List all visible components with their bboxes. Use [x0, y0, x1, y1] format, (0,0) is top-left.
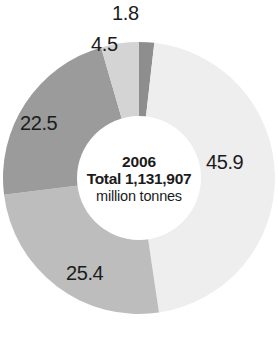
- donut-chart-svg: [0, 0, 278, 337]
- donut-hole: [77, 116, 201, 240]
- donut-chart: 2006 Total 1,131,907 million tonnes 45.9…: [0, 0, 278, 337]
